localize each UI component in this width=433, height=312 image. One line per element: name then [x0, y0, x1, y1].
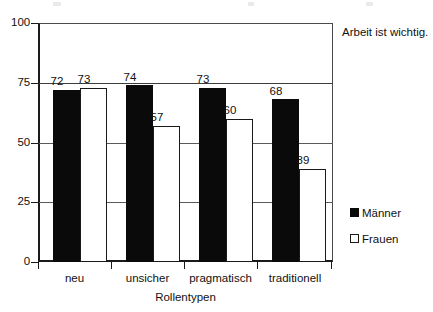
y-axis-label-25: 25 [0, 196, 30, 208]
y-axis-label-text: 50 [2, 137, 30, 149]
scan-artifact [248, 2, 254, 6]
scan-artifact [366, 2, 373, 6]
x-tick-0 [38, 262, 39, 269]
x-category-pragmatisch: pragmatisch [184, 272, 257, 285]
bar-value-maenner-traditionell: 68 [265, 85, 287, 97]
bar-frauen-traditionell[interactable] [299, 169, 326, 262]
legend: Männer Frauen [350, 206, 433, 258]
x-category-unsicher: unsicher [111, 272, 184, 285]
bars-layer [38, 23, 333, 262]
x-tick-3 [257, 262, 258, 269]
y-axis-label-text: 0 [2, 256, 30, 268]
bar-value-maenner-unsicher: 74 [119, 71, 141, 83]
filled-square-icon [350, 208, 359, 217]
bar-value-frauen-neu: 73 [73, 73, 95, 85]
y-axis-label-0: 0 [0, 256, 30, 268]
bar-value-maenner-pragmatisch: 73 [192, 73, 214, 85]
legend-item-frauen[interactable]: Frauen [350, 232, 433, 245]
y-axis-label-75: 75 [0, 77, 30, 89]
x-category-traditionell: traditionell [257, 272, 333, 285]
y-axis-label-text: 75 [2, 77, 30, 89]
bar-value-maenner-neu: 72 [46, 75, 68, 87]
bar-frauen-neu[interactable] [80, 88, 107, 262]
legend-label-maenner: Männer [362, 207, 401, 219]
bar-value-frauen-traditionell: 39 [292, 154, 314, 166]
x-axis-title: Rollentypen [38, 291, 333, 304]
legend-item-maenner[interactable]: Männer [350, 206, 433, 219]
bar-frauen-unsicher[interactable] [153, 126, 180, 262]
bar-maenner-traditionell[interactable] [272, 99, 299, 262]
y-axis-label-text: 25 [2, 196, 30, 208]
bar-value-frauen-unsicher: 57 [146, 111, 168, 123]
hollow-square-icon [350, 234, 359, 243]
scan-artifact [53, 2, 61, 6]
x-tick-2 [184, 262, 185, 269]
y-axis-label-50: 50 [0, 137, 30, 149]
x-category-neu: neu [38, 272, 111, 285]
bar-maenner-neu[interactable] [53, 90, 80, 262]
x-tick-4 [331, 262, 332, 269]
y-axis-label-text: 100 [2, 17, 30, 29]
bar-value-frauen-pragmatisch: 60 [219, 104, 241, 116]
bar-frauen-pragmatisch[interactable] [226, 119, 253, 262]
bar-chart: 100 75 50 25 0 72 73 74 57 73 60 68 39 n… [0, 0, 433, 312]
chart-title: Arbeit ist wichtig. [342, 26, 433, 39]
x-tick-1 [111, 262, 112, 269]
y-axis-label-100: 100 [0, 17, 30, 29]
legend-label-frauen: Frauen [362, 233, 398, 245]
